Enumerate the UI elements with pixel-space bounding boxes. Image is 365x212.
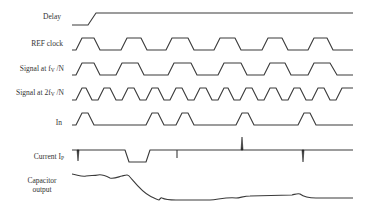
waveform-in (72, 113, 353, 125)
current-spike-down-1 (77, 150, 79, 161)
waveform-signal-2fv (72, 88, 353, 100)
waveform-signal-fv (72, 63, 353, 75)
current-spike-up (241, 137, 243, 150)
waveforms-canvas (0, 0, 365, 212)
waveform-capacitor-output (72, 174, 353, 200)
current-spike-down-2 (302, 150, 304, 162)
waveform-current-ip (72, 150, 353, 162)
waveform-delay (72, 13, 353, 25)
waveform-ref-clock (72, 38, 353, 50)
